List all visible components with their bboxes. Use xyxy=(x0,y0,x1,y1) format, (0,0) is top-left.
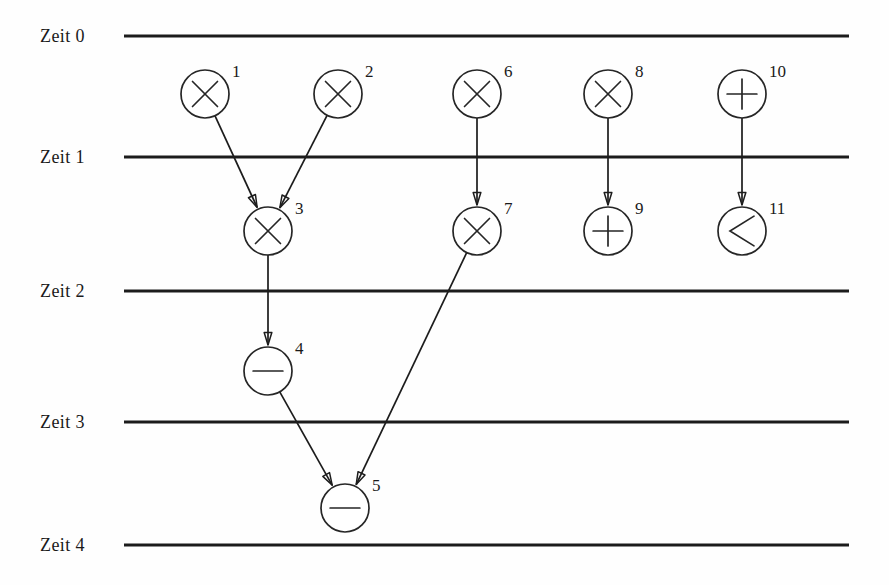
dependency-edge-layer xyxy=(215,115,746,485)
operation-node-10[interactable]: 10 xyxy=(718,62,786,118)
node-index-label-11: 11 xyxy=(769,199,785,218)
operation-node-2[interactable]: 2 xyxy=(314,62,374,118)
edge-8-9 xyxy=(604,118,612,205)
node-index-label-7: 7 xyxy=(504,199,513,218)
edge-2-3 xyxy=(280,115,327,207)
edge-7-5-line xyxy=(356,253,466,485)
edge-7-5-arrowhead-icon xyxy=(356,472,365,485)
edge-3-4 xyxy=(264,255,272,345)
node-index-label-6: 6 xyxy=(504,62,513,81)
edge-1-3-arrowhead-icon xyxy=(248,194,257,207)
operation-node-8[interactable]: 8 xyxy=(584,62,644,118)
node-index-label-3: 3 xyxy=(295,199,304,218)
time-label-0: Zeit 0 xyxy=(40,26,85,46)
node-index-label-10: 10 xyxy=(769,62,786,81)
node-index-label-2: 2 xyxy=(365,62,374,81)
node-index-label-8: 8 xyxy=(635,62,644,81)
node-index-label-1: 1 xyxy=(232,62,241,81)
operation-node-6[interactable]: 6 xyxy=(453,62,513,118)
edge-1-3 xyxy=(215,116,257,208)
operation-node-3[interactable]: 3 xyxy=(244,199,304,255)
diagram-canvas: Zeit 0Zeit 1Zeit 2Zeit 3Zeit 4 126810379… xyxy=(0,0,889,585)
edge-2-3-arrowhead-icon xyxy=(280,195,289,208)
node-index-label-5: 5 xyxy=(372,476,381,495)
operation-node-4[interactable]: 4 xyxy=(244,339,304,395)
operation-node-layer: 1268103791145 xyxy=(181,62,786,532)
edge-7-5 xyxy=(356,253,466,485)
edge-2-3-line xyxy=(280,115,327,207)
node-circle-11[interactable] xyxy=(718,207,766,255)
node-index-label-9: 9 xyxy=(635,199,644,218)
edge-4-5 xyxy=(280,392,333,485)
operation-node-1[interactable]: 1 xyxy=(181,62,241,118)
time-label-1: Zeit 1 xyxy=(40,147,85,167)
edge-6-7 xyxy=(473,118,481,205)
time-label-layer: Zeit 0Zeit 1Zeit 2Zeit 3Zeit 4 xyxy=(40,26,85,555)
operation-node-9[interactable]: 9 xyxy=(584,199,644,255)
edge-10-11 xyxy=(738,118,746,205)
edge-1-3-line xyxy=(215,116,257,208)
edge-4-5-line xyxy=(280,392,333,485)
scheduling-timeline-diagram: Zeit 0Zeit 1Zeit 2Zeit 3Zeit 4 126810379… xyxy=(0,0,889,585)
edge-4-5-arrowhead-icon xyxy=(323,473,332,486)
operation-node-11[interactable]: 11 xyxy=(718,199,785,255)
operation-node-7[interactable]: 7 xyxy=(453,199,513,255)
time-label-3: Zeit 3 xyxy=(40,412,85,432)
time-label-2: Zeit 2 xyxy=(40,281,85,301)
operation-node-5[interactable]: 5 xyxy=(321,476,381,532)
time-label-4: Zeit 4 xyxy=(40,535,85,555)
node-index-label-4: 4 xyxy=(295,339,304,358)
